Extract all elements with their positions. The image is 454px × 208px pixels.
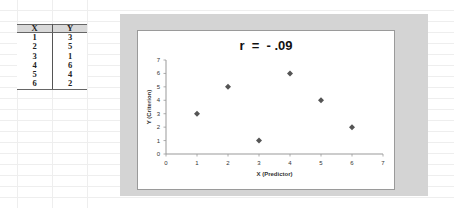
table-header-row: X Y	[17, 25, 87, 33]
data-table: X Y 13 25 31 46 54 62	[17, 24, 87, 90]
plot-area[interactable]: r = - .09 0123456701234567X (Predictor)Y…	[137, 30, 395, 190]
y-tick-label: 7	[157, 57, 161, 63]
x-tick-label: 3	[257, 160, 261, 166]
y-tick-label: 4	[157, 97, 161, 103]
table-row: 62	[17, 79, 87, 89]
x-tick-label: 2	[226, 160, 230, 166]
y-tick-label: 1	[157, 138, 161, 144]
scatter-plot: 0123456701234567X (Predictor)Y (Criterio…	[138, 31, 394, 189]
x-axis-title: X (Predictor)	[256, 171, 292, 177]
x-tick-label: 1	[195, 160, 199, 166]
x-tick-label: 6	[350, 160, 354, 166]
data-point-marker	[225, 84, 231, 90]
table-row: 54	[17, 70, 87, 79]
x-tick-label: 4	[288, 160, 292, 166]
data-point-marker	[349, 124, 355, 130]
cell-y[interactable]: 2	[53, 79, 88, 89]
chart-area[interactable]: r = - .09 0123456701234567X (Predictor)Y…	[120, 14, 428, 196]
x-tick-label: 0	[164, 160, 168, 166]
data-point-marker	[287, 70, 293, 76]
data-point-marker	[256, 138, 262, 144]
table-row: 46	[17, 61, 87, 70]
x-tick-label: 5	[319, 160, 323, 166]
y-tick-label: 0	[157, 151, 161, 157]
table-row: 13	[17, 33, 87, 43]
y-tick-label: 3	[157, 111, 161, 117]
data-point-marker	[318, 97, 324, 103]
y-tick-label: 2	[157, 124, 161, 130]
y-tick-label: 5	[157, 84, 161, 90]
y-tick-label: 6	[157, 70, 161, 76]
cell-x[interactable]: 6	[17, 79, 53, 89]
table-row: 31	[17, 52, 87, 61]
data-point-marker	[194, 111, 200, 117]
y-axis-title: Y (Criterion)	[146, 90, 152, 125]
x-tick-label: 7	[381, 160, 385, 166]
grid-column-line	[87, 0, 88, 208]
table-row: 25	[17, 42, 87, 51]
